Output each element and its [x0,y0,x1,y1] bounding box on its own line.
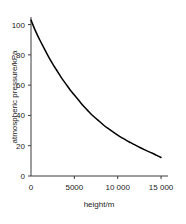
chart-figure: 020406080100 0500010 00015 000 height/m … [0,0,186,224]
y-axis-title: atmospheric pressure/kPa [10,50,19,143]
x-tick-label: 5000 [65,183,83,192]
x-tick-label: 10 000 [105,183,130,192]
y-tick-label: 100 [12,21,26,30]
chart-svg: 020406080100 0500010 00015 000 height/m … [0,0,186,224]
x-axis-title: height/m [84,200,115,209]
x-tick-label: 15 000 [149,183,174,192]
x-tick-label: 0 [29,183,34,192]
y-tick-label: 0 [21,172,26,181]
